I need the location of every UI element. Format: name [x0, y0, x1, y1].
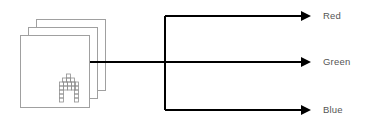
- output-label-blue: Blue: [323, 104, 343, 115]
- arrowhead-red-icon: [301, 11, 311, 21]
- output-label-green: Green: [323, 56, 350, 67]
- arrowhead-green-icon: [301, 57, 311, 67]
- arrowhead-blue-icon: [301, 105, 311, 115]
- connector-lines: [0, 0, 375, 125]
- channel-split-diagram: Red Green Blue: [0, 0, 375, 125]
- output-label-red: Red: [323, 10, 341, 21]
